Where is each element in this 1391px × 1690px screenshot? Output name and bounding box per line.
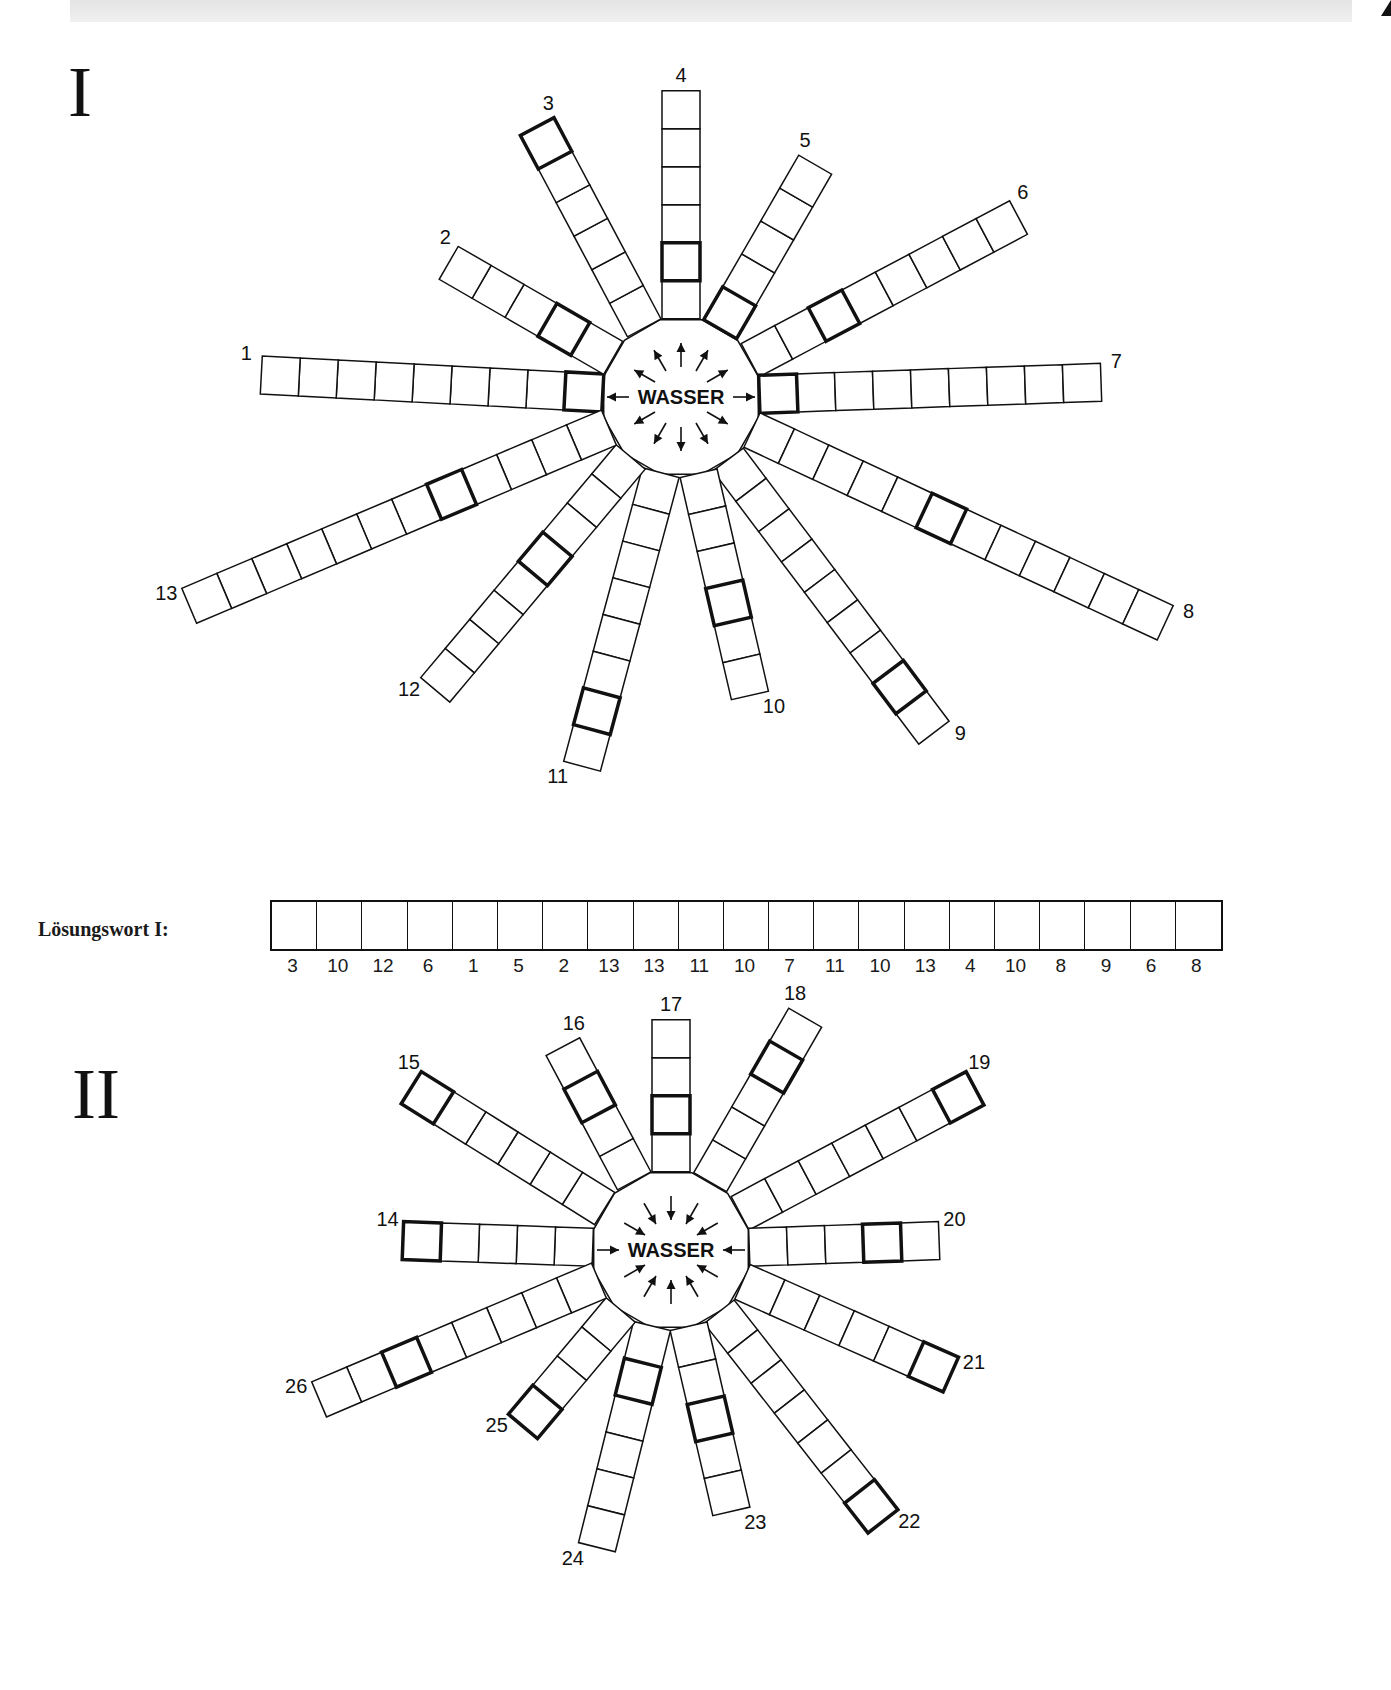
solution-cell-clue-number: 10 — [722, 955, 767, 977]
answer-cell[interactable] — [516, 1226, 555, 1265]
clue-number: 19 — [968, 1051, 990, 1073]
center-word: WASSER — [638, 386, 725, 408]
solution-cell[interactable] — [543, 902, 588, 949]
clue-number: 3 — [543, 92, 554, 114]
clue-number: 14 — [376, 1208, 398, 1230]
solution-cell-clue-number: 1 — [451, 955, 496, 977]
answer-cell[interactable] — [797, 373, 836, 412]
answer-cell[interactable] — [873, 370, 912, 409]
answer-cell[interactable] — [260, 356, 300, 396]
answer-cell[interactable] — [759, 374, 798, 413]
answer-cell[interactable] — [652, 1020, 690, 1058]
answer-cell[interactable] — [723, 654, 769, 700]
clue-number: 12 — [398, 678, 420, 700]
clue-number: 2 — [440, 226, 451, 248]
answer-cell[interactable] — [835, 371, 874, 410]
answer-cell[interactable] — [564, 372, 604, 412]
answer-cell[interactable] — [440, 1223, 479, 1262]
solution-cell[interactable] — [498, 902, 543, 949]
answer-cell[interactable] — [911, 369, 950, 408]
answer-cell[interactable] — [662, 129, 700, 167]
solution-cell[interactable] — [1131, 902, 1176, 949]
answer-cell[interactable] — [704, 1470, 750, 1516]
solution-cell[interactable] — [814, 902, 859, 949]
clue-number: 5 — [799, 129, 810, 151]
clue-arm-14: 14 — [376, 1208, 593, 1266]
clue-arm-1: 1 — [241, 342, 604, 412]
clue-number: 17 — [660, 993, 682, 1015]
answer-cell[interactable] — [478, 1224, 517, 1263]
solution-cell[interactable] — [950, 902, 995, 949]
answer-cell[interactable] — [488, 368, 528, 408]
solution-cell-clue-number: 10 — [315, 955, 360, 977]
answer-cell[interactable] — [554, 1227, 593, 1266]
answer-cell[interactable] — [662, 205, 700, 243]
answer-cell[interactable] — [336, 360, 376, 400]
solution-cell[interactable] — [634, 902, 679, 949]
clue-number: 13 — [155, 582, 177, 604]
answer-cell[interactable] — [662, 167, 700, 205]
solution-cell-clue-number: 8 — [1174, 955, 1219, 977]
solution-cell[interactable] — [362, 902, 407, 949]
answer-cell[interactable] — [652, 1096, 690, 1134]
solution-cell-clue-number: 13 — [903, 955, 948, 977]
clue-number: 16 — [563, 1012, 585, 1034]
solution-cell-clue-number: 2 — [541, 955, 586, 977]
star-puzzle-2: WASSER14151617181920212223242526 — [285, 982, 990, 1568]
answer-cell[interactable] — [402, 1222, 441, 1261]
solution-cell[interactable] — [588, 902, 633, 949]
solution-cell-clue-number: 6 — [406, 955, 451, 977]
answer-cell[interactable] — [948, 367, 987, 406]
solution-cell[interactable] — [1040, 902, 1085, 949]
solution-cell[interactable] — [769, 902, 814, 949]
solution-cell[interactable] — [317, 902, 362, 949]
clue-number: 21 — [963, 1351, 985, 1373]
answer-cell[interactable] — [825, 1224, 864, 1263]
answer-cell[interactable] — [374, 362, 414, 402]
answer-cell[interactable] — [652, 1134, 690, 1172]
solution-cell[interactable] — [1176, 902, 1221, 949]
clue-number: 15 — [398, 1051, 420, 1073]
answer-cell[interactable] — [412, 364, 452, 404]
answer-cell[interactable] — [450, 366, 490, 406]
answer-cell[interactable] — [986, 366, 1025, 405]
clue-number: 10 — [763, 695, 785, 717]
clue-number: 9 — [955, 722, 966, 744]
solution-cell[interactable] — [995, 902, 1040, 949]
solution-cell-clue-number: 12 — [360, 955, 405, 977]
answer-cell[interactable] — [298, 358, 338, 398]
clue-number: 20 — [943, 1208, 965, 1230]
solution-cell-clue-number: 10 — [857, 955, 902, 977]
answer-cell[interactable] — [579, 1506, 625, 1552]
solution-cell[interactable] — [408, 902, 453, 949]
solution-cell[interactable] — [905, 902, 950, 949]
solution-cells — [270, 900, 1223, 951]
solution-cell[interactable] — [272, 902, 317, 949]
solution-cell[interactable] — [453, 902, 498, 949]
solution-cell[interactable] — [724, 902, 769, 949]
answer-cell[interactable] — [1062, 363, 1101, 402]
answer-cell[interactable] — [787, 1226, 826, 1265]
clue-number: 7 — [1111, 350, 1122, 372]
answer-cell[interactable] — [901, 1222, 940, 1261]
solution-cell-clue-number: 3 — [270, 955, 315, 977]
answer-cell[interactable] — [526, 370, 566, 410]
answer-cell[interactable] — [662, 281, 700, 319]
clue-arm-17: 17 — [652, 993, 690, 1172]
answer-cell[interactable] — [662, 243, 700, 281]
solution-cell-clue-number: 7 — [767, 955, 812, 977]
solution-cell[interactable] — [1085, 902, 1130, 949]
clue-number: 4 — [675, 64, 686, 86]
solution-numbers: 3101261521313111071110134108968 — [270, 951, 1223, 977]
solution-cell[interactable] — [859, 902, 904, 949]
clue-arm-4: 4 — [662, 64, 700, 319]
star-puzzle-1: WASSER12345678910111213 — [155, 64, 1194, 788]
clue-number: 23 — [744, 1511, 766, 1533]
solution-cell-clue-number: 5 — [496, 955, 541, 977]
answer-cell[interactable] — [749, 1227, 788, 1266]
answer-cell[interactable] — [1024, 365, 1063, 404]
answer-cell[interactable] — [652, 1058, 690, 1096]
answer-cell[interactable] — [863, 1223, 902, 1262]
answer-cell[interactable] — [662, 91, 700, 129]
solution-cell[interactable] — [679, 902, 724, 949]
